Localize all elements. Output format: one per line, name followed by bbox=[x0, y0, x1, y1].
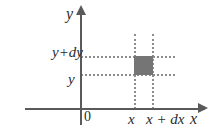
tick-label-x: x bbox=[128, 112, 135, 127]
x-axis-label: x bbox=[190, 111, 197, 127]
origin-label: 0 bbox=[84, 110, 91, 124]
tick-label-x-plus-dx: x + dx bbox=[146, 112, 184, 127]
shaded-area-element bbox=[134, 56, 153, 75]
tick-label-y: y bbox=[68, 72, 75, 87]
y-axis-label: y bbox=[66, 6, 73, 22]
x-axis-arrowhead-icon bbox=[198, 103, 208, 113]
area-element-diagram: y x y+dy y 0 x x + dx bbox=[0, 0, 215, 134]
y-axis-arrowhead-icon bbox=[76, 5, 86, 15]
guide-line-y bbox=[81, 74, 175, 76]
y-axis-line bbox=[80, 14, 82, 125]
tick-label-y-plus-dy: y+dy bbox=[52, 45, 83, 60]
guide-line-y-plus-dy bbox=[81, 56, 175, 58]
x-axis-line bbox=[25, 108, 205, 110]
